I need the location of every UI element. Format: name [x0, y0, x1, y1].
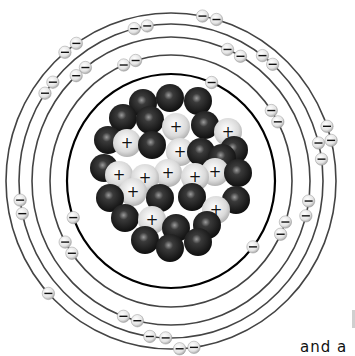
- neutron: [184, 87, 212, 115]
- electron: [210, 13, 222, 25]
- proton: +: [162, 113, 190, 141]
- plus-icon: +: [162, 164, 175, 182]
- electron: [42, 287, 54, 299]
- electron: [205, 76, 217, 88]
- neutron: [136, 106, 164, 134]
- electron: [247, 241, 259, 253]
- electron: [196, 10, 208, 22]
- electron: [39, 87, 51, 99]
- neutron: [224, 159, 252, 187]
- plus-icon: +: [174, 143, 187, 161]
- electron: [159, 332, 171, 344]
- electron: [47, 76, 59, 88]
- neutron: [178, 183, 206, 211]
- electron: [272, 116, 284, 128]
- electron: [300, 210, 312, 222]
- electron: [118, 59, 130, 71]
- electron: [59, 46, 71, 58]
- plus-icon: +: [113, 166, 126, 184]
- electron: [279, 216, 291, 228]
- electron: [16, 207, 28, 219]
- electron: [70, 69, 82, 81]
- caption-text: and a: [300, 338, 347, 356]
- neutron: [131, 226, 159, 254]
- neutron: [156, 84, 184, 112]
- electron: [321, 120, 333, 132]
- electron: [141, 20, 153, 32]
- plus-icon: +: [209, 163, 222, 181]
- electron: [173, 343, 185, 355]
- electron: [66, 247, 78, 259]
- electron: [117, 310, 129, 322]
- neutron: [156, 234, 184, 262]
- electron: [128, 22, 140, 34]
- neutron: [184, 228, 212, 256]
- atom-diagram: ++++++++++++: [0, 0, 355, 356]
- electron: [144, 330, 156, 342]
- electron: [129, 54, 141, 66]
- electron: [312, 137, 324, 149]
- electron: [256, 49, 268, 61]
- electron: [274, 228, 286, 240]
- proton: +: [113, 129, 141, 157]
- electron: [325, 134, 337, 146]
- neutron: [138, 131, 166, 159]
- electron: [188, 341, 200, 353]
- electron: [265, 104, 277, 116]
- plus-icon: +: [127, 183, 140, 201]
- electron: [59, 236, 71, 248]
- plus-icon: +: [121, 134, 134, 152]
- plus-icon: +: [170, 118, 183, 136]
- electron: [67, 211, 79, 223]
- electron: [70, 37, 82, 49]
- electron: [267, 58, 279, 70]
- electron: [221, 43, 233, 55]
- proton: +: [154, 159, 182, 187]
- electron: [131, 315, 143, 327]
- nucleus: ++++++++++++: [90, 84, 252, 262]
- electron: [302, 195, 314, 207]
- electron: [315, 153, 327, 165]
- neutron: [111, 204, 139, 232]
- electron: [14, 194, 26, 206]
- electron: [234, 50, 246, 62]
